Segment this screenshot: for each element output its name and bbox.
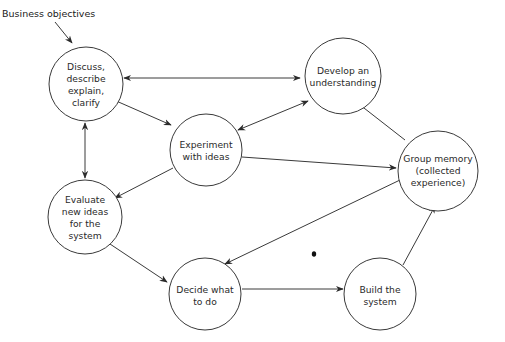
edge-experiment-to-evaluate (115, 168, 173, 198)
svg-text:Group memory: Group memory (403, 153, 473, 164)
edge-group-memory-to-decide (225, 180, 400, 264)
svg-text:describe: describe (66, 73, 105, 84)
svg-text:Build the: Build the (359, 284, 400, 295)
node-experiment: Experiment with ideas (170, 114, 242, 186)
svg-text:system: system (68, 230, 101, 241)
svg-text:(collected: (collected (415, 165, 460, 176)
edge-experiment-to-group-memory (242, 157, 396, 168)
business-objectives-label: Business objectives (2, 8, 95, 19)
svg-text:to do: to do (193, 296, 217, 307)
node-build: Build the system (344, 258, 416, 330)
process-diagram: Business objectives Discuss, describe ex… (0, 0, 505, 342)
stray-mark (312, 251, 316, 257)
edge-objectives-to-discuss (55, 22, 72, 43)
svg-text:explain,: explain, (68, 85, 104, 96)
svg-text:experience): experience) (411, 177, 466, 188)
svg-text:Discuss,: Discuss, (67, 61, 105, 72)
node-discuss: Discuss, describe explain, clarify (49, 47, 123, 121)
node-decide: Decide what to do (169, 258, 241, 330)
svg-text:Evaluate: Evaluate (65, 194, 105, 205)
node-evaluate: Evaluate new ideas for the system (48, 180, 122, 254)
svg-text:new ideas: new ideas (62, 206, 109, 217)
edge-evaluate-to-decide (110, 244, 167, 282)
svg-text:system: system (363, 296, 396, 307)
svg-text:with ideas: with ideas (183, 151, 230, 162)
edge-experiment-develop (238, 101, 308, 130)
svg-text:understanding: understanding (310, 77, 377, 88)
svg-text:Develop an: Develop an (317, 65, 369, 76)
svg-text:for the: for the (70, 218, 101, 229)
edge-build-to-group-memory (403, 206, 435, 265)
node-develop: Develop an understanding (305, 38, 381, 114)
svg-text:clarify: clarify (72, 97, 101, 108)
edge-discuss-to-experiment (114, 100, 171, 125)
svg-text:Decide what: Decide what (176, 284, 234, 295)
node-group-memory: Group memory (collected experience) (398, 131, 478, 211)
svg-text:Experiment: Experiment (179, 139, 232, 150)
